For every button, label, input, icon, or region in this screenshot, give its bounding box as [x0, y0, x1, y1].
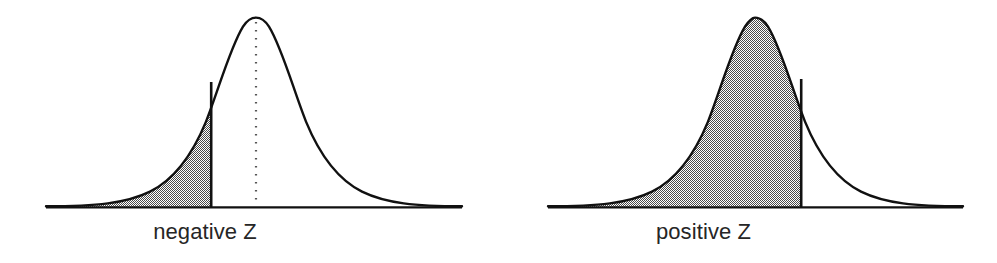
shaded-left-tail-region [40, 10, 211, 207]
normal-curve-outline [46, 18, 462, 207]
panel-caption-negative-z: negative Z [0, 219, 455, 245]
panel-caption-positive-z: positive Z [455, 219, 952, 245]
panel-negative-z: negative Z [0, 0, 500, 263]
panel-positive-z: positive Z [500, 0, 997, 263]
z-distribution-figure: negative Z [0, 0, 997, 263]
